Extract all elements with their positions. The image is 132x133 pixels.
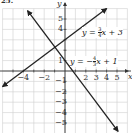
y-tick-label: −5 xyxy=(55,119,67,127)
eq1-suffix: x + 3 xyxy=(102,28,123,37)
y-axis-label: y xyxy=(57,0,62,8)
y-tick-label: 4 xyxy=(58,25,63,33)
y-tick-label: 5 xyxy=(58,15,63,23)
y-tick-label: 1 xyxy=(58,57,63,65)
y-tick-label: −4 xyxy=(55,109,67,117)
y-tick-label: −1 xyxy=(55,77,67,85)
eq2-prefix: y = − xyxy=(70,57,93,66)
y-tick-label: −2 xyxy=(55,88,67,96)
eq1-prefix: y = xyxy=(82,28,98,37)
x-tick-label: 5 xyxy=(115,74,120,82)
x-axis-label: x xyxy=(128,73,132,81)
eq2-suffix: x + 1 xyxy=(96,57,117,66)
equation-label-line-2: y = −43x + 1 xyxy=(70,56,118,67)
x-tick-label: 3 xyxy=(94,74,99,82)
x-tick-label: 2 xyxy=(83,74,88,82)
x-tick-label: 4 xyxy=(104,74,109,82)
x-tick-label: −2 xyxy=(38,74,50,82)
y-tick-label: −3 xyxy=(55,98,67,106)
equation-label-line-1: y = 34x + 3 xyxy=(82,27,123,38)
problem-label: 25. xyxy=(1,0,13,4)
x-tick-label: −4 xyxy=(17,74,29,82)
